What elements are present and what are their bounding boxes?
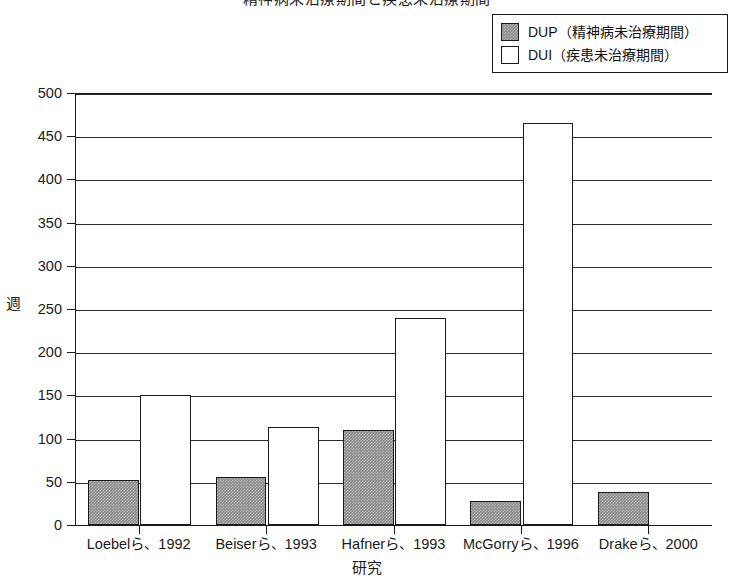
y-tick-label: 250 — [18, 302, 62, 317]
bar-dup — [343, 430, 394, 525]
bar-dui — [395, 318, 446, 525]
bar-dui — [268, 427, 319, 525]
gridline — [76, 310, 712, 311]
bar-dup — [88, 480, 139, 525]
x-tick-label: Loebelら、1992 — [87, 537, 191, 552]
y-tick-label: 400 — [18, 172, 62, 187]
x-tick-mark — [394, 525, 395, 534]
gridline — [76, 94, 712, 95]
y-tick-mark — [67, 482, 75, 483]
bar-dup — [470, 501, 521, 525]
x-tick-mark — [266, 525, 267, 534]
x-tick-label: Beiserら、1993 — [215, 537, 316, 552]
y-tick-label: 450 — [18, 129, 62, 144]
plot-area — [75, 93, 712, 525]
y-tick-label: 0 — [18, 518, 62, 533]
y-tick-label: 150 — [18, 388, 62, 403]
y-tick-mark — [67, 395, 75, 396]
y-tick-label: 500 — [18, 86, 62, 101]
y-tick-mark — [67, 439, 75, 440]
gridline — [76, 137, 712, 138]
x-tick-label: Hafnerら、1993 — [342, 537, 446, 552]
bar-dui — [523, 123, 574, 525]
y-tick-mark — [67, 266, 75, 267]
y-tick-mark — [67, 309, 75, 310]
chart-plot-wrapper: 週 050100150200250300350400450500 Loebelら… — [0, 0, 733, 580]
y-tick-mark — [67, 179, 75, 180]
y-tick-label: 100 — [18, 432, 62, 447]
gridline — [76, 224, 712, 225]
gridline — [76, 353, 712, 354]
gridline — [76, 180, 712, 181]
y-tick-label: 50 — [18, 475, 62, 490]
x-tick-label: Drakeら、2000 — [599, 537, 698, 552]
bar-dup — [216, 477, 267, 525]
x-tick-mark — [648, 525, 649, 534]
x-axis-title: 研究 — [0, 560, 733, 575]
y-tick-mark — [67, 93, 75, 94]
y-tick-label: 300 — [18, 259, 62, 274]
bar-dui — [140, 395, 191, 525]
y-tick-mark — [67, 525, 75, 526]
y-tick-label: 350 — [18, 216, 62, 231]
x-tick-mark — [521, 525, 522, 534]
x-tick-label: McGorryら、1996 — [463, 537, 579, 552]
gridline — [76, 267, 712, 268]
x-tick-mark — [139, 525, 140, 534]
y-tick-mark — [67, 223, 75, 224]
y-tick-mark — [67, 352, 75, 353]
y-tick-label: 200 — [18, 345, 62, 360]
y-tick-mark — [67, 136, 75, 137]
bar-dup — [598, 492, 649, 525]
